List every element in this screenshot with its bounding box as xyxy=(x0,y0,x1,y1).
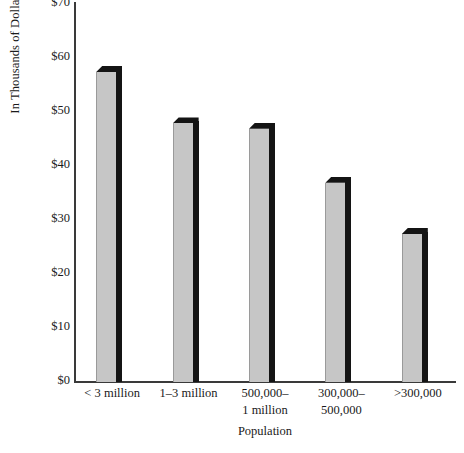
bar-top-face xyxy=(173,117,199,123)
bar xyxy=(402,228,422,382)
bar xyxy=(96,66,116,382)
bar-chart-figure: In Thousands of Dollars $0$10$20$30$40$5… xyxy=(0,0,464,453)
bar-side-face xyxy=(422,232,428,382)
plot-area xyxy=(74,0,456,382)
bar-top-face xyxy=(325,177,351,183)
y-axis-tick-label: $60 xyxy=(24,50,70,63)
y-axis-tick-label: $20 xyxy=(24,266,70,279)
y-axis-tick-label: $70 xyxy=(24,0,70,9)
bar xyxy=(173,117,193,382)
bar-top-face xyxy=(249,123,275,129)
y-axis-tick-label: $50 xyxy=(24,104,70,117)
bar-top-face xyxy=(96,66,122,72)
bar-front-face xyxy=(173,123,193,382)
bar-front-face xyxy=(249,129,269,382)
bar-side-face xyxy=(116,70,122,382)
y-axis-tick-label: $30 xyxy=(24,212,70,225)
bar xyxy=(325,177,345,382)
bar-front-face xyxy=(96,72,116,382)
bar-side-face xyxy=(193,121,199,382)
bar-top-face xyxy=(402,228,428,234)
x-axis-tick-label: >300,000 xyxy=(363,385,464,402)
x-axis-title: Population xyxy=(74,424,456,439)
y-axis-line xyxy=(74,2,76,382)
bar-front-face xyxy=(402,234,422,382)
y-axis-tick-label: $10 xyxy=(24,320,70,333)
cropped-caption xyxy=(0,444,464,453)
bar-side-face xyxy=(345,181,351,382)
bar xyxy=(249,123,269,382)
bar-front-face xyxy=(325,183,345,382)
bar-side-face xyxy=(269,127,275,382)
y-axis-tick-label: $40 xyxy=(24,158,70,171)
